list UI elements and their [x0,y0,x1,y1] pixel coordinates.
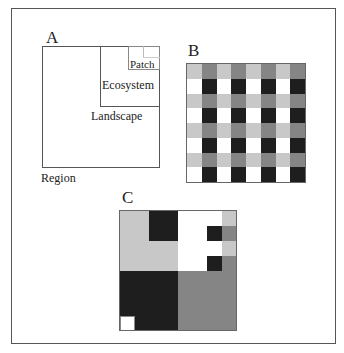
panel-a-label: A [46,29,58,46]
dark-cell-2 [207,256,222,271]
grid-cell [231,94,246,109]
gray-cell-4 [222,256,237,271]
white-subcell [120,316,135,331]
grid-cell [202,94,217,109]
grid-cell [290,79,305,94]
grid-cell [202,123,217,138]
grid-cell [246,123,261,138]
grid-cell [276,123,291,138]
grid-cell [187,94,202,109]
grid-cell [276,64,291,79]
grid-cell [246,167,261,182]
grid-cell [217,123,232,138]
patch-label: Patch [130,58,154,70]
grid-cell [276,153,291,168]
grid-cell [202,153,217,168]
gray-cell-3 [222,241,237,256]
grid-cell [217,94,232,109]
region-label: Region [41,172,76,184]
grid-cell [187,138,202,153]
grid-cell [261,123,276,138]
grid-cell [202,167,217,182]
grid-cell [246,138,261,153]
grid-cell [231,153,246,168]
grid-cell [290,138,305,153]
grid-cell [217,153,232,168]
grid-cell [187,64,202,79]
grid-cell [246,79,261,94]
gray-cell-2 [222,226,237,241]
grid-cell [187,79,202,94]
grid-cell [217,108,232,123]
grid-cell [202,79,217,94]
checkerboard-grid [186,63,306,183]
grid-cell [231,64,246,79]
grid-cell [276,94,291,109]
dark-subblock [149,211,178,241]
gray-cell-1 [222,211,237,226]
grid-cell [261,108,276,123]
grid-cell [202,138,217,153]
grid-cell [261,167,276,182]
grid-cell [246,94,261,109]
grid-cell [231,138,246,153]
dark-cell-1 [207,226,222,241]
hierarchical-grid [119,210,237,331]
grid-cell [246,108,261,123]
grid-cell [290,108,305,123]
grid-cell [261,153,276,168]
grid-cell [276,167,291,182]
grid-cell [261,94,276,109]
grid-cell [202,108,217,123]
grid-cell [290,94,305,109]
grid-cell [202,64,217,79]
grid-cell [217,138,232,153]
grid-cell [261,64,276,79]
grid-cell [261,138,276,153]
grid-cell [217,64,232,79]
landscape-label: Landscape [91,110,142,122]
grid-cell [290,167,305,182]
grid-cell [276,108,291,123]
grid-cell [276,79,291,94]
grid-cell [276,138,291,153]
grid-cell [231,79,246,94]
grid-cell [187,123,202,138]
panel-b-label: B [188,42,199,59]
grid-cell [290,123,305,138]
grid-cell [231,167,246,182]
ecosystem-label: Ecosystem [102,79,154,91]
grid-cell [217,79,232,94]
grid-cell [187,108,202,123]
panel-c-label: C [122,189,133,206]
grid-cell [187,153,202,168]
grid-cell [246,64,261,79]
grid-cell [261,79,276,94]
grid-cell [231,123,246,138]
quadrant-bottom-right [178,271,237,331]
grid-cell [231,108,246,123]
grid-cell [290,153,305,168]
grid-cell [290,64,305,79]
grid-cell [187,167,202,182]
grid-cell [217,167,232,182]
grid-cell [246,153,261,168]
